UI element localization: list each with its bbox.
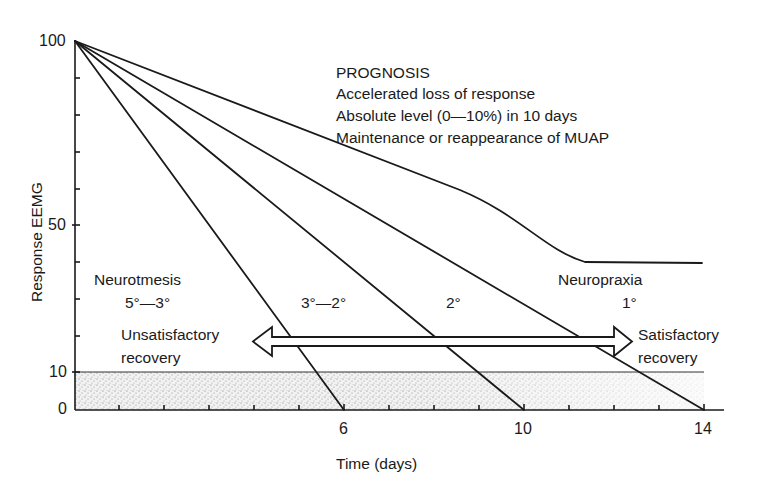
x-tick-6: 6 xyxy=(339,420,348,438)
recovery-double-arrow xyxy=(253,327,632,356)
y-tick-10: 10 xyxy=(49,363,67,381)
prognosis-heading: PROGNOSIS xyxy=(336,63,430,82)
label-neuropraxia-degree: 1° xyxy=(622,293,637,312)
absolute-level-band xyxy=(75,372,704,410)
label-unsatisfactory-recovery-1: Unsatisfactory xyxy=(121,325,219,344)
label-satisfactory-recovery-1: Satisfactory xyxy=(638,325,719,344)
label-neurotmesis: Neurotmesis xyxy=(94,270,181,289)
label-neurotmesis-degree: 5°—3° xyxy=(125,293,170,312)
y-tick-100: 100 xyxy=(39,32,66,50)
label-satisfactory-recovery-2: recovery xyxy=(638,348,697,367)
series-neurotmesis-line xyxy=(75,41,344,410)
prognosis-line-2: Absolute level (0—10%) in 10 days xyxy=(336,106,577,125)
label-neuropraxia: Neuropraxia xyxy=(558,270,642,289)
prognosis-line-3: Maintenance or reappearance of MUAP xyxy=(336,128,609,147)
label-grade-3-2: 3°—2° xyxy=(301,293,346,312)
x-tick-10: 10 xyxy=(514,420,532,438)
y-tick-0: 0 xyxy=(58,400,67,418)
label-grade-2: 2° xyxy=(446,293,461,312)
x-axis-title: Time (days) xyxy=(336,454,417,473)
y-axis-title: Response EEMG xyxy=(28,182,46,302)
y-axis xyxy=(72,41,80,410)
label-unsatisfactory-recovery-2: recovery xyxy=(121,348,180,367)
y-tick-50: 50 xyxy=(48,216,66,234)
x-tick-14: 14 xyxy=(694,420,712,438)
prognosis-line-1: Accelerated loss of response xyxy=(336,84,535,103)
